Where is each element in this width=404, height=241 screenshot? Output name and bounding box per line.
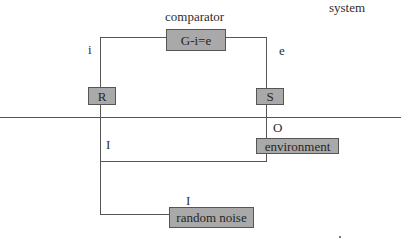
stray-dot (339, 236, 341, 238)
comparator-label: comparator (165, 10, 224, 24)
environment-box: environment (256, 138, 339, 154)
S-box: S (256, 88, 284, 105)
signal-I-left-label: I (106, 138, 110, 152)
line-top-left (100, 37, 166, 38)
comparator-box: G-i=e (166, 29, 226, 51)
system-label: system (329, 1, 365, 15)
system-boundary-line (0, 117, 401, 118)
signal-I-noise-label: I (186, 194, 190, 208)
line-environment-loop (100, 161, 267, 162)
line-left-vertical (100, 37, 101, 215)
random-noise-box: random noise (169, 207, 254, 228)
signal-O-label: O (273, 121, 282, 135)
R-box: R (88, 87, 116, 105)
line-noise (100, 214, 170, 215)
line-top-right (226, 37, 267, 38)
signal-e-label: e (279, 44, 285, 58)
signal-i-label: i (88, 43, 92, 57)
